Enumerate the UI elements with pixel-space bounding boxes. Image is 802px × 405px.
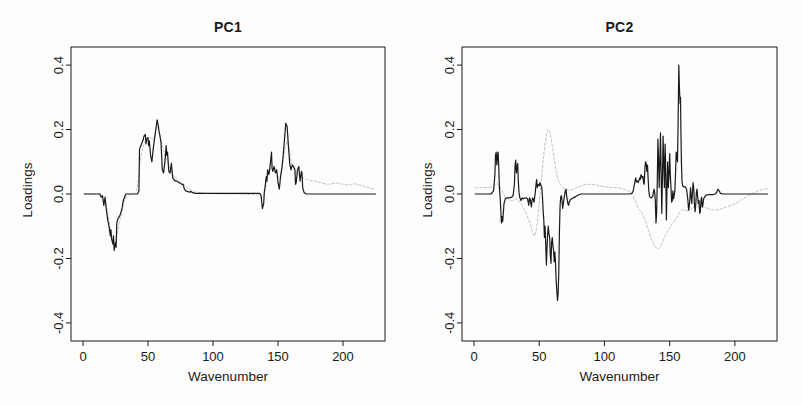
pc2-loadings-solid-line bbox=[475, 65, 767, 300]
x-tick-label: 0 bbox=[470, 349, 477, 364]
y-tick-label: 0.2 bbox=[442, 120, 457, 138]
y-tick-label: 0.4 bbox=[51, 56, 66, 74]
pc1-x-axis-label: Wavenumber bbox=[71, 369, 385, 385]
x-tick-label: 100 bbox=[594, 349, 616, 364]
x-tick-label: 50 bbox=[532, 349, 546, 364]
y-tick-label: -0.4 bbox=[51, 312, 66, 334]
x-tick-label: 100 bbox=[202, 349, 224, 364]
y-tick-label: 0.2 bbox=[51, 120, 66, 138]
figure-canvas: PC1 PC2 Loadings Loadings 050100150200-0… bbox=[0, 0, 802, 405]
pc2-x-axis-label: Wavenumber bbox=[462, 369, 777, 385]
y-tick-label: 0.4 bbox=[442, 56, 457, 74]
pc1-plot: 050100150200-0.4-0.20.00.20.4 bbox=[0, 0, 402, 405]
y-tick-label: 0.0 bbox=[51, 185, 66, 203]
pc2-plot: 050100150200-0.4-0.20.00.20.4 bbox=[400, 0, 802, 405]
x-tick-label: 150 bbox=[267, 349, 289, 364]
x-tick-label: 50 bbox=[141, 349, 155, 364]
x-tick-label: 200 bbox=[724, 349, 746, 364]
x-tick-label: 150 bbox=[659, 349, 681, 364]
x-tick-label: 0 bbox=[79, 349, 86, 364]
pc1-overlay-dotted-line bbox=[84, 126, 375, 247]
pc1-loadings-solid-line bbox=[84, 120, 375, 251]
y-tick-label: 0.0 bbox=[442, 185, 457, 203]
y-tick-label: -0.2 bbox=[442, 247, 457, 269]
y-tick-label: -0.2 bbox=[51, 247, 66, 269]
x-tick-label: 200 bbox=[332, 349, 354, 364]
y-tick-label: -0.4 bbox=[442, 312, 457, 334]
